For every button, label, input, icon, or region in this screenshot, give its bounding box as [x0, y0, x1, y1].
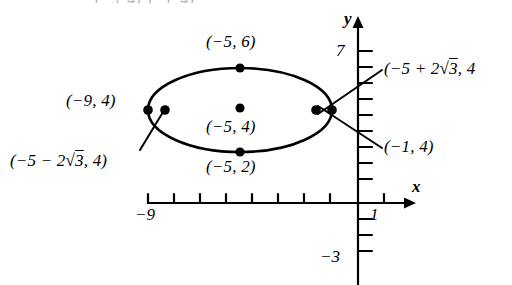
x-axis-ticks [148, 194, 384, 203]
label-left-vertex: (−9, 4) [66, 92, 116, 109]
label-center: (−5, 4) [206, 118, 256, 135]
label-top-covertex: (−5, 6) [206, 33, 256, 50]
y-axis [353, 16, 364, 285]
label-left-focus: (−5 − 2√3, 4) [10, 152, 107, 169]
y-axis-name: y [344, 10, 352, 27]
label-bottom-covertex: (−5, 2) [206, 158, 256, 175]
label-left-focus-tail: , 4) [84, 151, 107, 170]
plotted-points [143, 63, 337, 156]
point-top-covertex [235, 63, 244, 72]
x-tick-label-1: 1 [370, 206, 379, 223]
label-right-focus: (−5 + 2√3, 4 [384, 60, 475, 77]
x-axis-name: x [412, 178, 421, 195]
point-left-vertex [143, 105, 153, 115]
y-tick-label-7: 7 [336, 42, 345, 59]
point-bottom-covertex [235, 147, 244, 156]
figure-canvas: (−5, 4), (−1, 4) [0, 0, 512, 285]
leader-lines [140, 70, 382, 150]
label-left-focus-radicand: 3 [75, 151, 84, 170]
point-right-vertex [327, 105, 337, 115]
point-right-focus [311, 105, 321, 115]
point-left-focus [160, 105, 170, 115]
y-tick-label-minus3: −3 [320, 248, 340, 265]
point-center [235, 103, 244, 112]
label-right-focus-radicand: 3 [449, 59, 458, 78]
sqrt-symbol-right: √3 [440, 59, 458, 78]
label-right-focus-head: (−5 + 2 [384, 59, 440, 78]
diagram-svg [0, 0, 512, 285]
x-tick-label-minus9: −9 [135, 206, 155, 223]
label-right-focus-tail: , 4 [458, 59, 476, 78]
sqrt-symbol-left: √3 [66, 151, 84, 170]
label-left-focus-head: (−5 − 2 [10, 151, 66, 170]
label-right-vertex: (−1, 4) [384, 138, 434, 155]
